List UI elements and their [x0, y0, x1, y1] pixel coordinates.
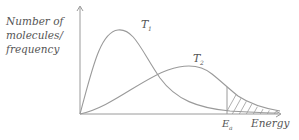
- maxwell-boltzmann-chart: Number of molecules/ frequency: [0, 0, 299, 140]
- y-axis-label-line-1: Number of: [6, 14, 76, 28]
- y-axis-label-line-2: molecules/: [6, 28, 76, 42]
- svg-text:2: 2: [199, 59, 204, 66]
- label-t1: T 1: [141, 18, 152, 32]
- y-axis: [77, 6, 83, 114]
- svg-text:a: a: [229, 124, 233, 131]
- x-axis-label: Energy: [250, 117, 290, 129]
- label-t2: T 2: [193, 52, 204, 66]
- y-axis-label-line-3: frequency: [6, 42, 76, 56]
- svg-text:1: 1: [148, 25, 152, 32]
- y-axis-label: Number of molecules/ frequency: [6, 14, 76, 56]
- label-ea: E a: [221, 118, 233, 131]
